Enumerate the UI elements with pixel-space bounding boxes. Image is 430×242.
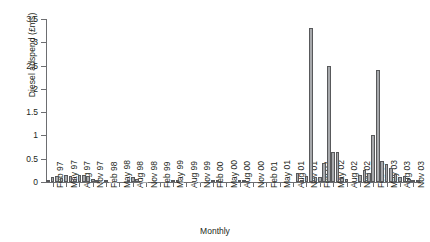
- x-tick-mark: [200, 183, 201, 187]
- x-tick-mark: [146, 183, 147, 187]
- bar: [305, 176, 309, 182]
- bar: [363, 170, 367, 182]
- x-tick-mark: [413, 183, 414, 187]
- y-tick-label: 2: [0, 85, 38, 93]
- bar: [55, 176, 59, 182]
- bar: [322, 163, 326, 182]
- bar: [91, 179, 95, 182]
- bar: [309, 28, 313, 182]
- x-tick-mark: [347, 183, 348, 187]
- x-tick-mark: [213, 183, 214, 187]
- bar: [104, 180, 108, 182]
- x-tick-mark: [266, 183, 267, 187]
- x-tick-mark: [280, 183, 281, 187]
- x-tick-mark: [306, 183, 307, 187]
- bar: [82, 175, 86, 182]
- plot-area: [46, 19, 420, 182]
- bar: [416, 180, 420, 182]
- bar: [411, 180, 415, 182]
- x-tick-mark: [240, 183, 241, 187]
- bar: [385, 164, 389, 182]
- bar: [176, 180, 180, 182]
- y-tick-label: 0: [0, 178, 38, 186]
- x-tick-mark: [293, 183, 294, 187]
- bar: [336, 152, 340, 182]
- bar: [46, 180, 50, 182]
- bar: [394, 174, 398, 182]
- bar: [78, 175, 82, 182]
- bar: [51, 177, 55, 182]
- bar: [376, 70, 380, 182]
- bar: [69, 176, 73, 182]
- bar: [345, 179, 349, 182]
- bar: [389, 168, 393, 182]
- bar: [131, 177, 135, 182]
- bar: [211, 180, 215, 182]
- bar: [95, 180, 99, 182]
- x-tick-mark: [387, 183, 388, 187]
- x-tick-mark: [119, 183, 120, 187]
- bar: [407, 179, 411, 182]
- x-tick-mark: [320, 183, 321, 187]
- y-tick-label: 2.5: [0, 62, 38, 70]
- bar: [86, 176, 90, 182]
- y-tick-label: 1.5: [0, 108, 38, 116]
- bar: [300, 180, 304, 182]
- x-tick-mark: [333, 183, 334, 187]
- x-tick-mark: [373, 183, 374, 187]
- bar: [171, 180, 175, 182]
- x-tick-mark: [253, 183, 254, 187]
- bar: [358, 175, 362, 182]
- x-tick-mark: [66, 183, 67, 187]
- bar: [135, 179, 139, 182]
- x-axis-title: Monthly: [0, 226, 430, 236]
- bar: [398, 177, 402, 182]
- bar: [216, 180, 220, 182]
- x-tick-mark: [53, 183, 54, 187]
- x-tick-mark: [160, 183, 161, 187]
- bar: [340, 178, 344, 182]
- x-tick-mark: [360, 183, 361, 187]
- x-tick-mark: [133, 183, 134, 187]
- x-tick-mark: [79, 183, 80, 187]
- x-tick-mark: [226, 183, 227, 187]
- x-tick-mark: [186, 183, 187, 187]
- y-tick-label: 1: [0, 131, 38, 139]
- bar: [238, 180, 242, 182]
- x-tick-mark: [173, 183, 174, 187]
- bar: [331, 152, 335, 182]
- bar: [127, 180, 131, 182]
- bar: [367, 173, 371, 182]
- bar: [318, 177, 322, 182]
- bar: [73, 179, 77, 182]
- bar: [64, 175, 68, 182]
- x-tick-mark: [106, 183, 107, 187]
- bar: [327, 66, 331, 182]
- bar: [60, 178, 64, 182]
- x-tick-mark: [93, 183, 94, 187]
- bar: [296, 173, 300, 182]
- y-tick-label: 3: [0, 38, 38, 46]
- bar: [242, 180, 246, 182]
- diesel-adspend-bar-chart: Diesel adspend (£ms) 00.511.522.533.5 Fe…: [0, 0, 430, 242]
- bar: [380, 161, 384, 182]
- bar: [371, 135, 375, 182]
- bar: [314, 177, 318, 182]
- y-tick-mark: [41, 182, 46, 183]
- y-tick-label: 0.5: [0, 155, 38, 163]
- bar: [403, 176, 407, 182]
- y-tick-label: 3.5: [0, 15, 38, 23]
- x-tick-mark: [400, 183, 401, 187]
